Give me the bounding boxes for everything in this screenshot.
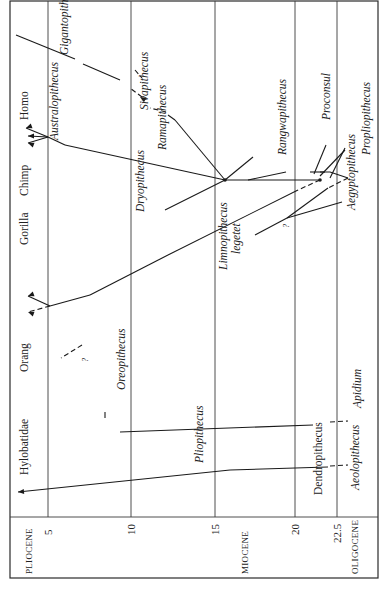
- branch-node: [318, 178, 322, 182]
- branch: [28, 137, 48, 143]
- fossil-taxon-label: Limnopithecus: [217, 202, 230, 271]
- branch: [320, 172, 348, 178]
- axis-tick-label: 5: [42, 529, 54, 535]
- branch: [225, 157, 253, 180]
- branch-node: [223, 178, 227, 182]
- question-mark: ?: [282, 224, 291, 228]
- branch: [165, 180, 225, 210]
- uncertain-branch: [61, 345, 82, 358]
- fossil-taxon-label: Aeolopithecus: [349, 424, 362, 491]
- branch: [168, 115, 175, 120]
- branch: [50, 295, 90, 306]
- branch: [120, 425, 313, 432]
- uncertain-branch: [330, 465, 348, 466]
- fossil-taxon-label: Aegyptopithecus: [345, 133, 358, 211]
- fossil-taxon-label: Dryopithecus: [134, 150, 147, 213]
- fossil-taxon-label: Gigantopithecus: [58, 0, 71, 55]
- axis-tick-label: 22.5: [331, 523, 343, 543]
- arrowhead-icon: [18, 489, 24, 495]
- phylogeny-branches: [16, 35, 348, 492]
- living-taxon-label: Hylobatidae: [18, 419, 31, 475]
- branch: [18, 470, 230, 492]
- living-taxon-label: Orang: [18, 343, 31, 372]
- phylogeny-diagram: 510152022.5 PLIOCENEMIOCENEOLIGOCENE Hyl…: [0, 0, 383, 590]
- question-mark: ?: [81, 358, 90, 362]
- branch: [314, 145, 326, 174]
- fossil-taxa-labels: GigantopithecusAustralopithecusSivapithe…: [48, 0, 373, 495]
- uncertain-branch: [330, 421, 348, 422]
- branch: [28, 296, 50, 306]
- living-taxa-labels: HylobatidaeOrangGorillaChimpHomo: [18, 91, 31, 475]
- epoch-label: MIOCENE: [240, 531, 250, 574]
- fossil-taxon-label: Propliopithecus: [360, 81, 373, 156]
- epoch-label: OLIGOCENE: [350, 520, 360, 574]
- arrowheads: [18, 95, 147, 495]
- branch: [248, 172, 286, 180]
- axis-tick-labels: 510152022.5: [42, 523, 343, 543]
- fossil-taxon-label: legetet: [230, 223, 243, 254]
- epoch-label: PLIOCENE: [24, 528, 34, 574]
- fossil-taxon-label: Dendropithecus: [312, 422, 325, 495]
- fossil-taxon-label: Ramapithecus: [156, 84, 169, 151]
- fossil-taxon-label: Apidium: [351, 369, 364, 409]
- fossil-taxon-label: Sivapithecus: [138, 51, 151, 110]
- fossil-taxon-label: Australopithecus: [48, 62, 61, 141]
- axis-tick-label: 20: [289, 524, 301, 536]
- branch: [90, 255, 168, 295]
- uncertain-branch: [28, 306, 50, 312]
- fossil-taxon-label: Rangwapithecus: [276, 78, 289, 156]
- uncertainty-marks: ??: [81, 224, 291, 362]
- arrowhead-icon: [28, 134, 34, 139]
- axis-tick-label: 10: [125, 524, 137, 536]
- living-taxon-label: Homo: [18, 91, 30, 120]
- living-taxon-label: Chimp: [18, 164, 31, 196]
- axis-tick-label: 15: [209, 524, 221, 536]
- living-taxon-label: Gorilla: [18, 212, 30, 245]
- fossil-taxon-label: Oreopithecus: [115, 328, 128, 390]
- fossil-taxon-label: Pliopithecus: [193, 405, 206, 464]
- fossil-taxon-label: Proconsul: [320, 73, 332, 121]
- branch: [83, 64, 120, 80]
- uncertain-branch: [298, 180, 320, 190]
- epoch-labels: PLIOCENEMIOCENEOLIGOCENE: [24, 520, 360, 574]
